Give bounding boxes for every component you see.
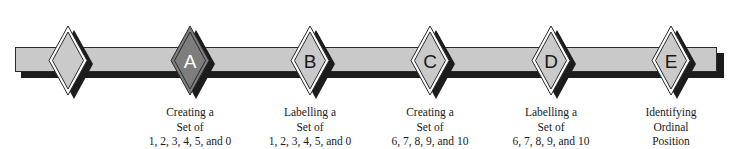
milestone-c-letter: C — [423, 51, 437, 72]
timeline-diagram: A B C D E Cr — [0, 0, 741, 149]
milestone-b-diamond: B — [291, 26, 335, 99]
milestone-d-letter: D — [544, 51, 558, 72]
milestone-a-diamond: A — [171, 26, 215, 99]
milestone-e-letter: E — [665, 51, 678, 72]
milestone-d-diamond: D — [532, 26, 576, 99]
milestone-e-caption: Identifying Ordinal Position — [596, 105, 741, 149]
start-marker-diamond — [49, 26, 93, 99]
milestone-b-letter: B — [304, 51, 317, 72]
timeline-bar — [16, 48, 717, 72]
caption-line: Ordinal — [596, 120, 741, 135]
caption-line: Position — [596, 134, 741, 149]
caption-line: Identifying — [596, 105, 741, 120]
milestone-e-diamond: E — [652, 26, 696, 99]
milestone-c-diamond: C — [411, 26, 455, 99]
milestone-a-letter: A — [184, 51, 197, 72]
